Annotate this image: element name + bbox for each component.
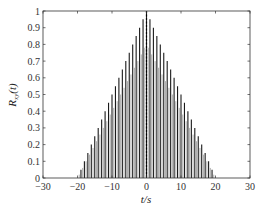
y-tick-label: 0.7 xyxy=(28,56,41,67)
y-tick-label: 0.9 xyxy=(28,22,41,33)
x-tick-label: 20 xyxy=(211,181,221,192)
x-tick-label: 10 xyxy=(176,181,186,192)
chart: −30−20−100102030 00.10.20.30.40.50.60.70… xyxy=(0,0,256,208)
y-axis-label: Rxy(t) xyxy=(6,83,20,108)
x-tick-label: 30 xyxy=(245,181,255,192)
x-axis-label: t/s xyxy=(141,193,151,205)
svg-text:Rxy(t): Rxy(t) xyxy=(6,83,20,108)
x-axis-ticks: −30−20−100102030 xyxy=(35,11,255,192)
y-tick-label: 0.3 xyxy=(28,122,41,133)
y-tick-label: 0.5 xyxy=(28,89,41,100)
x-tick-label: −20 xyxy=(70,181,86,192)
y-tick-label: 0.2 xyxy=(28,139,41,150)
y-tick-label: 0.4 xyxy=(28,106,41,117)
y-tick-label: 0 xyxy=(35,173,40,184)
y-tick-label: 0.1 xyxy=(28,156,41,167)
y-axis-ticks: 00.10.20.30.40.50.60.70.80.91 xyxy=(28,6,251,184)
y-tick-label: 0.6 xyxy=(28,72,41,83)
x-tick-label: 0 xyxy=(144,181,149,192)
y-tick-label: 0.8 xyxy=(28,39,41,50)
x-tick-label: −10 xyxy=(104,181,120,192)
y-tick-label: 1 xyxy=(35,6,40,17)
